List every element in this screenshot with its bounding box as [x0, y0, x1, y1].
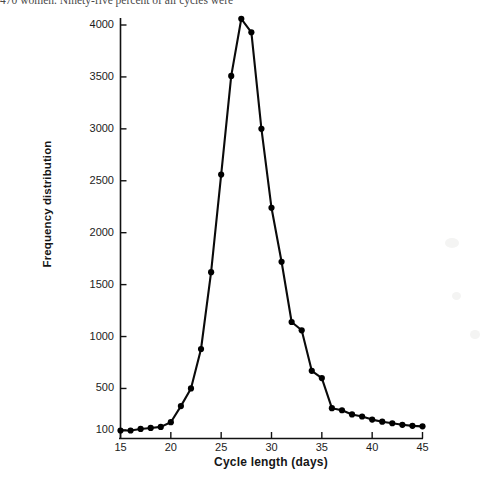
y-tick-label: 1000: [72, 330, 114, 342]
x-tick-label: 25: [201, 441, 241, 453]
x-tick-label: 15: [101, 441, 141, 453]
x-tick-label: 35: [302, 441, 342, 453]
data-point: [389, 420, 395, 426]
y-tick-label: 100: [72, 423, 114, 435]
y-tick-label: 1500: [72, 278, 114, 290]
data-point: [409, 423, 415, 429]
x-axis-ticks: [121, 432, 423, 439]
x-axis-title: Cycle length (days): [120, 455, 422, 469]
data-point: [198, 346, 204, 352]
data-point: [339, 407, 345, 413]
data-point: [379, 419, 385, 425]
data-point: [329, 405, 335, 411]
data-point: [289, 319, 295, 325]
data-point: [218, 171, 224, 177]
data-point: [399, 422, 405, 428]
y-tick-label: 4000: [72, 18, 114, 30]
data-point: [117, 427, 123, 433]
data-point: [349, 411, 355, 417]
y-axis-title: Frequency distribution: [41, 124, 53, 284]
data-point: [168, 419, 174, 425]
data-point: [268, 205, 274, 211]
data-point: [248, 29, 254, 35]
x-tick-label: 45: [403, 441, 443, 453]
data-point-markers: [117, 16, 425, 434]
data-point: [359, 413, 365, 419]
data-point: [319, 375, 325, 381]
y-tick-label: 3000: [72, 122, 114, 134]
y-tick-label: 2500: [72, 174, 114, 186]
y-tick-label: 2000: [72, 226, 114, 238]
x-tick-label: 20: [151, 441, 191, 453]
data-point: [258, 126, 264, 132]
x-tick-label: 30: [252, 441, 292, 453]
data-point: [208, 269, 214, 275]
y-tick-label: 500: [72, 381, 114, 393]
data-point: [148, 425, 154, 431]
data-point: [419, 423, 425, 429]
data-point: [278, 259, 284, 265]
data-point: [127, 427, 133, 433]
y-tick-label: 3500: [72, 70, 114, 82]
data-point: [238, 16, 244, 22]
data-point: [178, 403, 184, 409]
y-axis-ticks: [121, 25, 127, 430]
data-point: [138, 426, 144, 432]
data-line: [121, 19, 423, 431]
data-point: [228, 73, 234, 79]
x-tick-label: 40: [352, 441, 392, 453]
data-point: [309, 368, 315, 374]
data-point: [188, 385, 194, 391]
data-point: [158, 424, 164, 430]
data-point: [369, 417, 375, 423]
data-point: [299, 327, 305, 333]
frequency-distribution-chart: Frequency distribution Cycle length (day…: [0, 0, 504, 484]
